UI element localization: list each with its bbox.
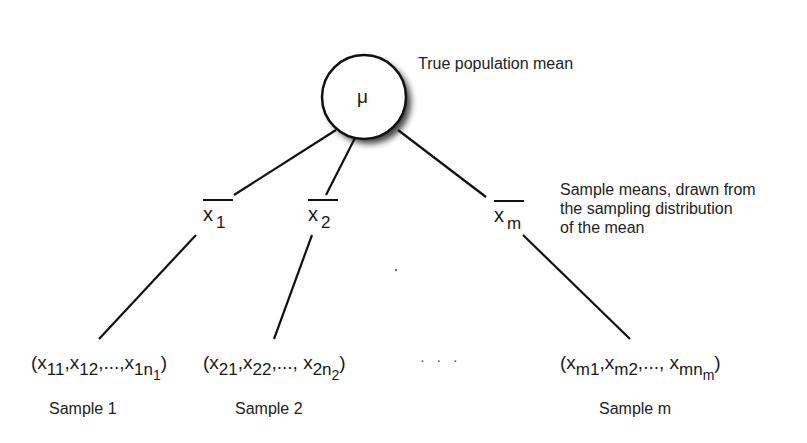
sample-means-caption: Sample means, drawn from the sampling di… bbox=[560, 180, 756, 237]
sample-mean-2: x2 bbox=[308, 199, 338, 233]
x-subscript-sub: m bbox=[703, 367, 715, 383]
x-subscript: 21 bbox=[219, 360, 238, 379]
mean-subscript: m bbox=[507, 214, 521, 233]
caption-line-2: the sampling distribution bbox=[560, 199, 756, 218]
sample-label-m: Sample m bbox=[599, 400, 671, 418]
mean-subscript: 1 bbox=[216, 213, 225, 232]
paren-close: ) bbox=[714, 352, 720, 373]
separator: ,..., bbox=[638, 352, 670, 373]
sample-tuple-2: (x21,x22,..., x2n2) bbox=[203, 352, 346, 386]
x-subscript: 12 bbox=[79, 360, 98, 379]
x-symbol: x bbox=[209, 352, 219, 373]
edge-root-mean1 bbox=[234, 130, 336, 195]
sample-label-1: Sample 1 bbox=[49, 400, 117, 418]
x-symbol: x bbox=[566, 352, 576, 373]
ellipsis: · · · bbox=[420, 352, 462, 368]
caption-line-1: Sample means, drawn from bbox=[560, 180, 756, 199]
x-subscript-base: 2n bbox=[313, 360, 332, 379]
sample-mean-1: x1 bbox=[203, 199, 233, 233]
sample-tuple-1: (x11,x12,...,x1n1) bbox=[31, 352, 167, 386]
x-subscript: 11 bbox=[47, 360, 65, 379]
mean-subscript: 2 bbox=[321, 213, 330, 232]
paren-close: ) bbox=[161, 352, 167, 373]
x-subscript-base: 1n bbox=[134, 360, 153, 379]
mean-symbol: x bbox=[308, 203, 318, 225]
x-symbol: x bbox=[125, 352, 135, 373]
x-subscript: 1n1 bbox=[134, 360, 161, 379]
x-symbol: x bbox=[605, 352, 615, 373]
caption-line-3: of the mean bbox=[560, 218, 756, 237]
x-symbol: x bbox=[37, 352, 47, 373]
stray-dot bbox=[395, 269, 397, 271]
x-symbol: x bbox=[243, 352, 253, 373]
x-symbol: x bbox=[70, 352, 80, 373]
edge-root-mean2 bbox=[326, 138, 355, 195]
edge-mean1-sample1 bbox=[99, 235, 196, 339]
overline bbox=[494, 200, 524, 202]
overline bbox=[203, 199, 233, 201]
x-subscript: m2 bbox=[614, 360, 638, 379]
root-node-caption: True population mean bbox=[418, 54, 573, 73]
edge-root-meanm bbox=[398, 130, 486, 197]
edge-meanm-samplem bbox=[523, 235, 630, 339]
sample-tuple-m: (xm1,xm2,..., xmnm) bbox=[560, 352, 721, 386]
x-subscript: 22 bbox=[253, 360, 272, 379]
sample-label-2: Sample 2 bbox=[235, 400, 303, 418]
root-node-symbol: μ bbox=[357, 86, 368, 108]
x-subscript: mnm bbox=[679, 360, 714, 379]
x-subscript-sub: 1 bbox=[153, 367, 161, 383]
sample-mean-m: xm bbox=[494, 200, 524, 234]
mean-symbol: x bbox=[203, 203, 213, 225]
x-subscript: 2n2 bbox=[313, 360, 340, 379]
paren-close: ) bbox=[339, 352, 345, 373]
separator: ,..., bbox=[271, 352, 303, 373]
separator: ,..., bbox=[98, 352, 124, 373]
mean-symbol: x bbox=[494, 204, 504, 226]
edge-mean2-sample2 bbox=[274, 235, 312, 339]
x-subscript-base: mn bbox=[679, 360, 703, 379]
x-symbol: x bbox=[303, 352, 313, 373]
overline bbox=[308, 199, 338, 201]
x-subscript: m1 bbox=[576, 360, 600, 379]
x-symbol: x bbox=[670, 352, 680, 373]
